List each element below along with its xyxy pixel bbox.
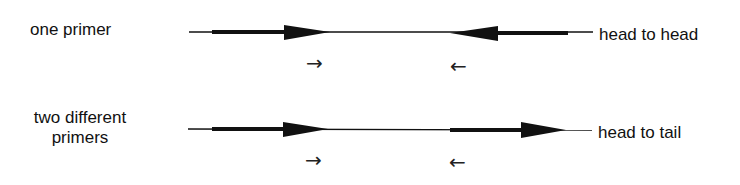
primer-2-arrowhead-icon xyxy=(450,26,498,41)
primer-arrows xyxy=(0,0,740,185)
primer-2-arrowhead-icon xyxy=(521,122,566,138)
left-arrow-icon: ← xyxy=(450,56,467,76)
left-arrow-icon: ← xyxy=(449,152,466,172)
right-arrow-icon: → xyxy=(306,53,323,73)
row-2-strand xyxy=(188,122,592,138)
row-1-strand xyxy=(189,25,593,41)
primer-1-arrowhead-icon xyxy=(283,122,328,137)
primer-1-arrowhead-icon xyxy=(284,25,330,40)
right-arrow-icon: → xyxy=(305,150,322,170)
